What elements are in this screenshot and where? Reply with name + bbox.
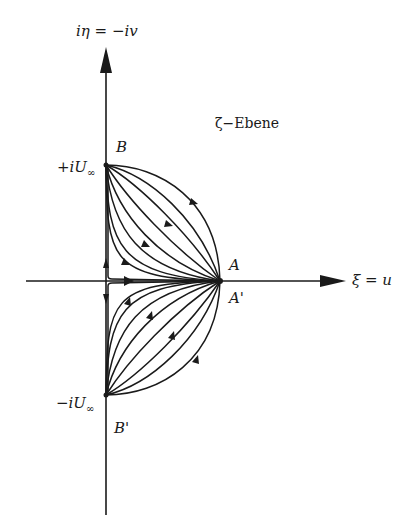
point-b-node xyxy=(104,163,109,168)
point-b-prime-node xyxy=(104,393,109,398)
point-a-node xyxy=(217,278,223,284)
vertical-axis-label: iη = −iv xyxy=(76,24,138,39)
point-b-value-text: +iU xyxy=(57,158,87,176)
point-b-prime-value-subscript: ∞ xyxy=(86,403,94,414)
upper-direction-arrows xyxy=(121,198,198,286)
arrow-icon xyxy=(121,258,130,265)
point-b-label: B xyxy=(116,140,127,155)
point-b-prime-label: B' xyxy=(114,421,129,436)
horizontal-axis-arrowhead-icon xyxy=(320,275,346,287)
point-b-value-subscript: ∞ xyxy=(87,167,95,178)
arrow-icon xyxy=(124,276,134,286)
vertical-axis-arrowhead-icon xyxy=(100,47,112,73)
arrow-icon xyxy=(189,198,198,205)
horizontal-axis-label: ξ = u xyxy=(352,273,392,288)
zeta-plane-diagram: iη = −iv ζ−Ebene B +iU∞ A A' ξ = u −iU∞ … xyxy=(0,0,418,532)
point-a-prime-label: A' xyxy=(229,291,244,306)
lower-direction-arrows xyxy=(124,297,199,364)
point-b-prime-value: −iU∞ xyxy=(56,396,94,411)
plane-label: ζ−Ebene xyxy=(215,116,279,130)
point-b-value: +iU∞ xyxy=(57,160,95,175)
arrow-icon xyxy=(141,240,150,247)
arrow-icon xyxy=(168,331,175,340)
point-b-prime-value-text: −iU xyxy=(56,394,86,412)
lower-streamlines xyxy=(106,281,220,395)
diagram-canvas xyxy=(0,0,418,532)
arrow-icon xyxy=(146,311,153,320)
point-a-label: A xyxy=(229,258,240,273)
